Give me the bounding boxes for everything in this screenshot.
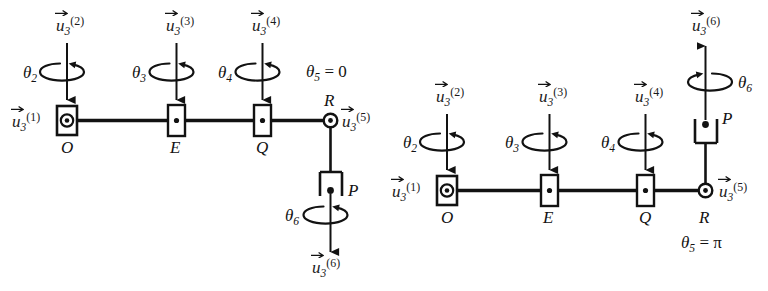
vector-base: u bbox=[312, 258, 321, 277]
vector-superscript: (5) bbox=[733, 180, 747, 194]
left-theta4-label: θ4 bbox=[218, 64, 232, 84]
left-rotation-theta2 bbox=[40, 64, 84, 81]
left-theta6-label: θ6 bbox=[285, 207, 299, 227]
config-theta-value: = π bbox=[695, 233, 722, 252]
right-theta2-label: θ2 bbox=[403, 134, 417, 154]
left-panel-graphics bbox=[40, 43, 348, 252]
left-theta2-label: θ2 bbox=[23, 64, 37, 84]
vector-base: u bbox=[539, 87, 548, 106]
left-joint-E bbox=[168, 105, 185, 136]
right-vector-label-u3-2: u3(2) bbox=[436, 87, 464, 108]
config-theta-value: = 0 bbox=[320, 62, 347, 81]
vector-superscript: (2) bbox=[70, 14, 84, 28]
right-theta6-label: θ6 bbox=[738, 74, 752, 94]
left-vector-label-u3-2: u3(2) bbox=[56, 16, 84, 37]
left-point-label-R: R bbox=[324, 92, 334, 109]
vector-base: u bbox=[692, 16, 701, 35]
right-vector-label-u3-6: u3(6) bbox=[692, 16, 720, 37]
left-point-label-O: O bbox=[61, 139, 73, 156]
left-vector-label-u3-3: u3(3) bbox=[166, 16, 194, 37]
left-joint-Q bbox=[254, 105, 271, 136]
right-vector-label-u3-3: u3(3) bbox=[539, 87, 567, 108]
right-vector-label-u3-4: u3(4) bbox=[635, 87, 663, 108]
vector-superscript: (4) bbox=[266, 14, 280, 28]
vector-superscript: (6) bbox=[326, 256, 340, 270]
kinematic-chain-figure: u3(2) u3(3) u3(4) u3(1) u3(5) bbox=[0, 0, 768, 291]
left-vector-label-u3-4: u3(4) bbox=[252, 16, 280, 37]
vector-superscript: (5) bbox=[356, 110, 370, 124]
left-theta3-label: θ3 bbox=[132, 64, 146, 84]
right-config-theta5-label: θ5 = π bbox=[681, 234, 722, 254]
theta-subscript: 6 bbox=[746, 82, 752, 95]
left-joint-O bbox=[57, 106, 77, 135]
vector-base: u bbox=[635, 87, 644, 106]
right-rotation-theta6 bbox=[688, 74, 732, 91]
left-point-label-P: P bbox=[348, 182, 358, 199]
right-point-label-E: E bbox=[543, 209, 553, 226]
vector-base: u bbox=[436, 87, 445, 106]
right-point-label-Q: Q bbox=[639, 209, 651, 226]
left-vector-label-u3-5: u3(5) bbox=[342, 112, 370, 133]
right-point-label-O: O bbox=[441, 209, 453, 226]
right-joint-O bbox=[437, 176, 457, 205]
vector-superscript: (6) bbox=[706, 14, 720, 28]
theta-subscript: 3 bbox=[513, 142, 519, 155]
vector-base: u bbox=[392, 182, 401, 201]
right-rotation-theta2 bbox=[420, 134, 464, 151]
theta-subscript: 2 bbox=[31, 72, 37, 85]
vector-superscript: (4) bbox=[649, 85, 663, 99]
left-point-label-Q: Q bbox=[256, 139, 268, 156]
vector-base: u bbox=[252, 16, 261, 35]
right-joint-E bbox=[541, 175, 558, 206]
theta-subscript: 3 bbox=[140, 72, 146, 85]
right-theta3-label: θ3 bbox=[505, 134, 519, 154]
left-rotation-theta4 bbox=[236, 64, 280, 81]
vector-superscript: (3) bbox=[553, 85, 567, 99]
vector-base: u bbox=[342, 112, 351, 131]
left-joint-R bbox=[324, 114, 338, 128]
theta-subscript: 4 bbox=[609, 142, 615, 155]
right-rotation-theta3 bbox=[523, 134, 567, 151]
left-point-label-E: E bbox=[170, 139, 180, 156]
right-joint-Q bbox=[637, 175, 654, 206]
left-vector-label-u3-6: u3(6) bbox=[312, 258, 340, 279]
vector-base: u bbox=[719, 182, 728, 201]
diagram-canvas bbox=[0, 0, 768, 291]
vector-superscript: (1) bbox=[26, 110, 40, 124]
theta-subscript: 2 bbox=[411, 142, 417, 155]
right-panel-graphics bbox=[420, 46, 732, 206]
vector-base: u bbox=[56, 16, 65, 35]
right-vector-label-u3-5: u3(5) bbox=[719, 182, 747, 203]
right-vector-label-u3-1: u3(1) bbox=[392, 182, 420, 203]
right-theta4-label: θ4 bbox=[601, 134, 615, 154]
left-rotation-theta3 bbox=[150, 64, 194, 81]
right-point-label-P: P bbox=[722, 110, 732, 127]
right-rotation-theta4 bbox=[619, 134, 663, 151]
right-joint-R bbox=[699, 184, 713, 198]
vector-superscript: (3) bbox=[180, 14, 194, 28]
theta-subscript: 6 bbox=[293, 215, 299, 228]
theta-subscript: 4 bbox=[226, 72, 232, 85]
left-joint-P bbox=[320, 172, 342, 196]
vector-base: u bbox=[166, 16, 175, 35]
left-rotation-theta6 bbox=[304, 207, 348, 224]
vector-superscript: (1) bbox=[406, 180, 420, 194]
right-joint-P bbox=[695, 119, 717, 143]
left-vector-label-u3-1: u3(1) bbox=[12, 112, 40, 133]
vector-superscript: (2) bbox=[450, 85, 464, 99]
right-point-label-R: R bbox=[699, 209, 709, 226]
vector-base: u bbox=[12, 112, 21, 131]
left-config-theta5-label: θ5 = 0 bbox=[306, 63, 347, 83]
